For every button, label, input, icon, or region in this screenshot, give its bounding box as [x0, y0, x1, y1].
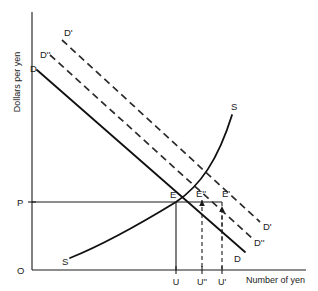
- supply-curve-S: [70, 115, 232, 258]
- demand-label-left-D-double-prime: D'': [40, 49, 51, 60]
- demand-label-right-D: D: [234, 253, 241, 264]
- origin-label: O: [17, 265, 24, 276]
- demand-curve-D-prime: [62, 40, 260, 222]
- chart-canvas: Dollars per yen Number of yen O P U U'' …: [0, 0, 318, 291]
- equilibrium-label-E: E: [170, 189, 176, 200]
- supply-label-top: S: [231, 101, 237, 112]
- equilibrium-label-E-prime: E': [222, 188, 230, 199]
- y-axis-title: Dollars per yen: [12, 52, 22, 113]
- excess-demand-arrows: [199, 200, 225, 240]
- foreign-exchange-supply-demand-figure: Dollars per yen Number of yen O P U U'' …: [0, 0, 318, 291]
- arrowhead-up-upper: [219, 206, 225, 212]
- price-level-label: P: [17, 197, 23, 208]
- x-tick-label-U1: U': [218, 277, 226, 287]
- x-axis-title: Number of yen: [246, 275, 305, 285]
- demand-label-right-D-prime: D': [263, 221, 272, 232]
- x-tick-label-U: U: [173, 277, 180, 287]
- x-tick-label-U2: U'': [197, 277, 207, 287]
- arrowhead-up-lower: [199, 200, 205, 206]
- equilibrium-label-E-double-prime: E'': [196, 188, 206, 199]
- demand-label-left-D-prime: D': [64, 27, 73, 38]
- supply-label-bottom: S: [62, 256, 68, 267]
- demand-label-left-D: D: [30, 63, 37, 74]
- demand-label-right-D-double-prime: D'': [254, 237, 265, 248]
